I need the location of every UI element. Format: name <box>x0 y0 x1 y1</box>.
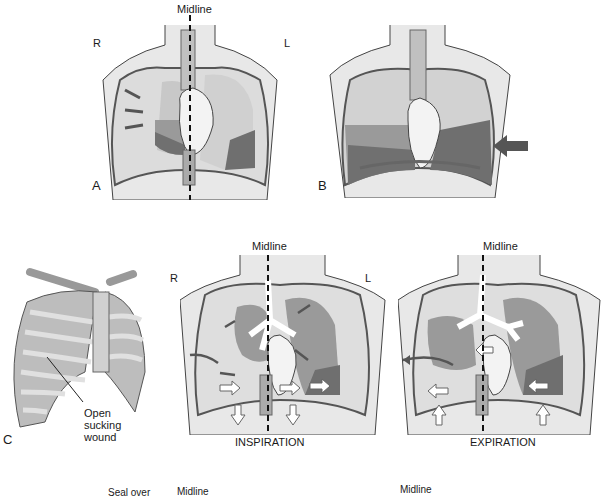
bottom-midline-label-2-partial: Midline <box>400 484 432 496</box>
panel-a-right-label: R <box>93 37 101 49</box>
expiration-midline-label: Midline <box>483 240 518 252</box>
inspiration-right-label: R <box>170 272 178 284</box>
expiration-chest-diagram <box>398 255 603 435</box>
inspiration-left-label: L <box>365 272 371 284</box>
panel-c-rib-cage <box>5 262 150 432</box>
panel-b-pointer-arrow <box>493 135 528 157</box>
bottom-midline-label-1-partial: Midline <box>177 486 209 498</box>
open-sucking-wound-label-line1: Open <box>84 407 111 419</box>
rib-cage-illustration <box>5 262 150 432</box>
left-arrow-icon <box>493 135 528 157</box>
open-sucking-wound-label-line2: sucking <box>84 419 121 431</box>
inspiration-illustration <box>180 255 390 435</box>
panel-a-illustration <box>85 10 290 200</box>
inspiration-caption: INSPIRATION <box>235 436 304 448</box>
panel-a-tension-pneumothorax <box>85 10 290 200</box>
panel-c-letter: C <box>3 432 12 447</box>
inspiration-midline-label: Midline <box>252 240 287 252</box>
panel-b-illustration <box>320 20 530 198</box>
panel-a-left-label: L <box>284 37 290 49</box>
panel-a-letter: A <box>92 178 101 193</box>
panel-b-letter: B <box>318 178 327 193</box>
expiration-illustration <box>398 255 603 435</box>
expiration-caption: EXPIRATION <box>470 436 536 448</box>
open-sucking-wound-label-line3: wound <box>84 431 116 443</box>
seal-over-label-partial: Seal over <box>108 487 150 499</box>
inspiration-chest-diagram <box>180 255 390 435</box>
panel-a-midline-label: Midline <box>177 3 212 15</box>
panel-b-hemothorax <box>320 20 530 198</box>
